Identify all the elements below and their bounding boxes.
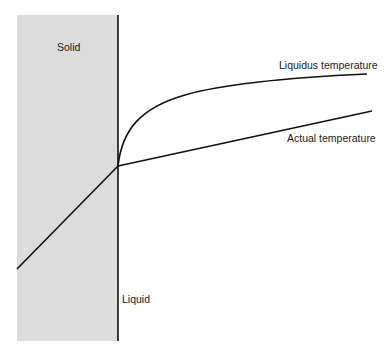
liquid-region-label: Liquid xyxy=(122,294,150,305)
actual-temperature-label: Actual temperature xyxy=(287,133,376,144)
liquidus-temperature-label: Liquidus temperature xyxy=(279,60,378,71)
solid-region xyxy=(17,15,118,341)
solid-region-label: Solid xyxy=(57,42,80,53)
solidification-diagram xyxy=(0,0,391,356)
